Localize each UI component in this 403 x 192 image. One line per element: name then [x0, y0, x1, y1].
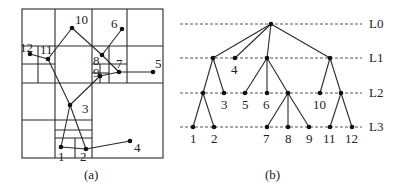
caption-b: (b)	[265, 167, 280, 182]
tree-node-7	[265, 125, 270, 130]
tree-edge	[245, 58, 267, 93]
tree-node-8	[286, 125, 291, 130]
level-label-l2: L2	[369, 85, 383, 100]
connection-11-3	[48, 59, 70, 105]
tree-label-4: 4	[231, 62, 238, 77]
point-label-11: 11	[40, 42, 53, 57]
point-label-6: 6	[111, 16, 118, 31]
point-6	[120, 27, 125, 32]
point-label-10: 10	[75, 12, 88, 27]
point-3	[68, 103, 73, 108]
tree-edge	[203, 58, 213, 93]
tree-label-1: 1	[190, 131, 197, 146]
tree-edge	[271, 24, 330, 58]
tree-node-1	[191, 125, 196, 130]
tree-edge	[267, 93, 288, 127]
point-8	[100, 53, 105, 58]
tree-node-root	[269, 22, 274, 27]
tree-edge	[193, 93, 203, 127]
point-label-7: 7	[116, 56, 123, 71]
point-label-3: 3	[82, 101, 89, 116]
figure-canvas: 1 2 3 4 5 6 7 8 9 10 11 12 (a) L0 L1 L2 …	[0, 0, 403, 192]
tree-node-2	[212, 125, 217, 130]
tree-label-8: 8	[285, 131, 292, 146]
tree-edge	[203, 93, 214, 127]
tree-node-12	[350, 125, 355, 130]
tree-label-10: 10	[313, 97, 326, 112]
tree-node-internal	[201, 91, 206, 96]
level-label-l0: L0	[369, 16, 383, 31]
tree-edge	[213, 58, 224, 93]
point-label-12: 12	[20, 40, 33, 55]
tree-edge	[341, 93, 352, 127]
point-label-4: 4	[134, 140, 141, 155]
connection-2-4	[86, 141, 130, 149]
tree-label-5: 5	[242, 97, 249, 112]
point-10	[70, 26, 75, 31]
tree-node-internal	[265, 56, 270, 61]
point-11	[46, 57, 51, 62]
tree-node-internal	[328, 56, 333, 61]
tree-node-internal	[211, 56, 216, 61]
tree-edge	[330, 93, 341, 127]
point-label-9: 9	[93, 65, 100, 80]
panel-b-nodes	[191, 22, 355, 130]
panel-b-edges	[193, 24, 352, 127]
panel-a-labels: 1 2 3 4 5 6 7 8 9 10 11 12	[20, 12, 162, 164]
tree-node-9	[307, 125, 312, 130]
tree-edge	[235, 24, 271, 58]
tree-label-7: 7	[263, 131, 270, 146]
tree-node-3	[222, 91, 227, 96]
tree-edge	[288, 93, 309, 127]
tree-label-6: 6	[263, 97, 270, 112]
tree-edge	[267, 58, 288, 93]
caption-a: (a)	[84, 167, 98, 182]
panel-b-level-labels: L0 L1 L2 L3	[369, 16, 383, 134]
point-4	[128, 139, 133, 144]
tree-label-11: 11	[323, 131, 336, 146]
connection-10-8	[72, 28, 102, 55]
point-label-5: 5	[155, 56, 162, 71]
tree-node-10	[318, 91, 323, 96]
point-label-2: 2	[80, 149, 87, 164]
panel-b-node-labels: 4 3 5 6 10 1 2 7 8 9 11 12	[190, 62, 358, 146]
tree-edge	[267, 24, 271, 58]
tree-node-11	[328, 125, 333, 130]
point-label-1: 1	[58, 149, 65, 164]
tree-node-internal	[286, 91, 291, 96]
tree-label-2: 2	[211, 131, 218, 146]
tree-edge	[213, 24, 271, 58]
tree-edge	[320, 58, 330, 93]
tree-node-4	[233, 56, 238, 61]
tree-label-12: 12	[345, 131, 358, 146]
tree-node-internal	[339, 91, 344, 96]
level-label-l1: L1	[369, 50, 383, 65]
tree-node-5	[243, 91, 248, 96]
tree-node-6	[265, 91, 270, 96]
level-label-l3: L3	[369, 119, 383, 134]
tree-edge	[330, 58, 341, 93]
connection-3-1	[61, 105, 70, 147]
tree-label-3: 3	[221, 97, 228, 112]
connection-8-6	[102, 29, 122, 55]
tree-label-9: 9	[306, 131, 313, 146]
